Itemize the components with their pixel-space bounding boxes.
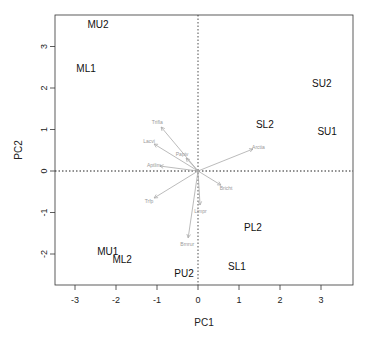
x-tick-label: -1 xyxy=(153,295,161,305)
score-label: MU2 xyxy=(87,19,109,30)
plot-frame xyxy=(55,15,353,285)
y-tick-label: 2 xyxy=(39,85,49,90)
loading-label: Limpr xyxy=(194,208,207,214)
score-label: SU1 xyxy=(317,126,337,137)
x-tick-label: -2 xyxy=(112,295,120,305)
x-axis-label: PC1 xyxy=(194,317,214,328)
biplot: -3-2-10123-2-10123 TriflaLacviPapivAptli… xyxy=(0,0,369,342)
score-label: PL2 xyxy=(244,222,262,233)
loading-arrow xyxy=(188,171,198,238)
loading-label: Papiv xyxy=(176,151,189,157)
reference-lines xyxy=(55,15,353,285)
score-label: ML1 xyxy=(76,63,96,74)
score-label: ML2 xyxy=(112,254,132,265)
y-axis-label: PC2 xyxy=(13,140,24,160)
score-label: SL2 xyxy=(256,119,274,130)
loading-arrow xyxy=(198,149,253,171)
x-tick-label: 2 xyxy=(277,295,282,305)
x-tick-label: 3 xyxy=(318,295,323,305)
y-tick-label: -2 xyxy=(39,250,49,258)
loading-arrow xyxy=(154,171,198,198)
loading-label: Arctia xyxy=(252,144,265,150)
score-label: SL1 xyxy=(228,261,246,272)
score-label: SU2 xyxy=(312,78,332,89)
loading-label: Aptlim xyxy=(147,162,161,168)
y-tick-label: 0 xyxy=(39,168,49,173)
y-tick-label: -1 xyxy=(39,208,49,216)
x-tick-label: -3 xyxy=(71,295,79,305)
x-tick-label: 1 xyxy=(236,295,241,305)
x-tick-label: 0 xyxy=(195,295,200,305)
loading-arrow xyxy=(161,127,198,171)
loading-label: Trifla xyxy=(152,119,163,125)
loading-label: Trfp xyxy=(145,198,154,204)
score-labels: MU2ML1SU2SL2SU1PL2MU1ML2SL1PU2 xyxy=(76,19,337,279)
loading-arrow xyxy=(160,166,198,171)
y-tick-label: 1 xyxy=(39,127,49,132)
loading-arrow xyxy=(198,171,221,185)
y-tick-label: 3 xyxy=(39,44,49,49)
score-label: PU2 xyxy=(174,268,194,279)
loading-arrow xyxy=(198,171,200,205)
loading-label: Bricht xyxy=(220,185,233,191)
loading-label: Lacvi xyxy=(143,138,155,144)
loading-label: Brnrur xyxy=(180,241,194,247)
axis-ticks: -3-2-10123-2-10123 xyxy=(39,44,324,305)
